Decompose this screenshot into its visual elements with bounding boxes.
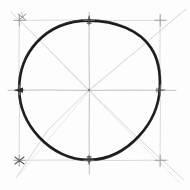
sketch-canvas: [0, 0, 190, 190]
center-point: [88, 89, 91, 92]
paper-background: [0, 0, 190, 190]
geometry-figure: [0, 0, 190, 190]
